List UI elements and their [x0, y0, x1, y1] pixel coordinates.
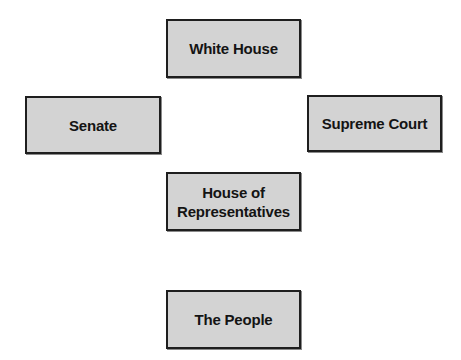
house-of-representatives-label: House of Representatives [177, 183, 290, 221]
white-house-label: White House [189, 39, 278, 58]
the-people-box: The People [166, 290, 301, 349]
senate-box: Senate [25, 96, 161, 154]
the-people-label: The People [194, 310, 272, 329]
supreme-court-box: Supreme Court [307, 95, 442, 152]
senate-label: Senate [69, 116, 117, 135]
supreme-court-label: Supreme Court [322, 114, 428, 133]
house-of-representatives-box: House of Representatives [166, 172, 301, 231]
white-house-box: White House [166, 19, 301, 78]
